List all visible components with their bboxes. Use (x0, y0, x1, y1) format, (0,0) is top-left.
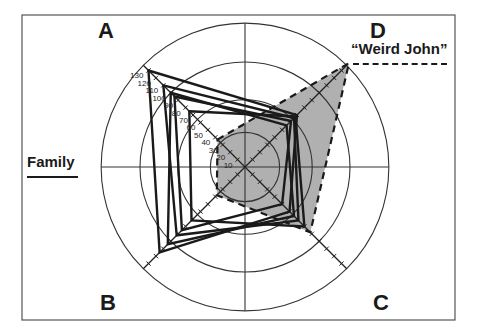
legend-family-label: Family (27, 153, 75, 170)
grid (101, 23, 389, 311)
quadrant-label-a: A (98, 18, 114, 44)
legend-weird-john-label: “Weird John” (351, 40, 447, 57)
legend-family-solid-line (27, 176, 78, 178)
quadrant-label-b: B (100, 290, 116, 316)
legend-weird-john-dashed-line (353, 63, 447, 65)
quadrant-label-c: C (373, 290, 389, 316)
tick-label: 130 (130, 71, 144, 80)
